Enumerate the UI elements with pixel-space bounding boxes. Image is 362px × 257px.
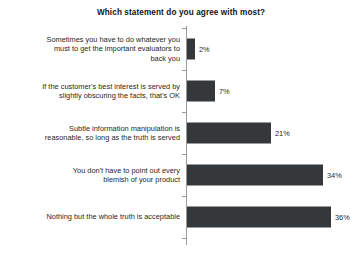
bar	[187, 207, 331, 228]
category-label: Subtle information manipulation is reaso…	[2, 124, 180, 143]
category-label: If the customer's best interest is serve…	[2, 82, 180, 101]
bar	[187, 81, 215, 102]
bar-value-label: 7%	[219, 87, 230, 96]
bar-row: Nothing but the whole truth is acceptabl…	[0, 196, 362, 238]
bar-value-label: 36%	[335, 213, 350, 222]
bar-chart: Which statement do you agree with most? …	[0, 0, 362, 257]
bar	[187, 123, 271, 144]
bar	[187, 39, 195, 60]
chart-title: Which statement do you agree with most?	[0, 8, 362, 17]
category-label: You don't have to point out every blemis…	[2, 166, 180, 185]
bar-value-label: 2%	[199, 45, 210, 54]
plot-area: Sometimes you have to do whatever you mu…	[0, 26, 362, 248]
bar-value-label: 34%	[327, 171, 342, 180]
bar-row: Subtle information manipulation is reaso…	[0, 112, 362, 154]
bar	[187, 165, 323, 186]
bar-row: Sometimes you have to do whatever you mu…	[0, 28, 362, 70]
bar-row: You don't have to point out every blemis…	[0, 154, 362, 196]
category-label: Nothing but the whole truth is acceptabl…	[2, 212, 180, 221]
bar-value-label: 21%	[275, 129, 290, 138]
category-label: Sometimes you have to do whatever you mu…	[2, 35, 180, 63]
axis-tick	[182, 238, 187, 239]
bar-row: If the customer's best interest is serve…	[0, 70, 362, 112]
